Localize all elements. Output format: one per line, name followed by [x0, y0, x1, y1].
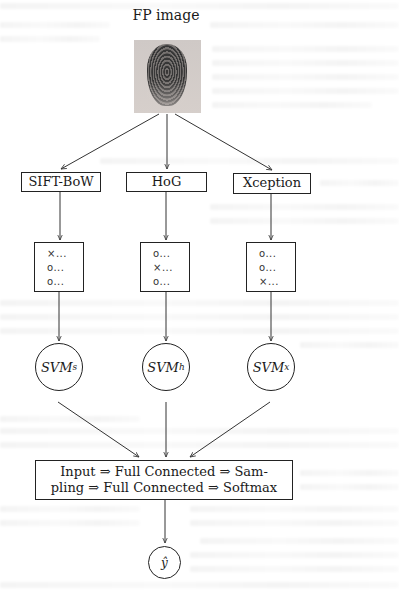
- input-title: FP image: [116, 7, 216, 23]
- vote-box-sift: ×... o... o...: [34, 242, 84, 292]
- fusion-line-1: Input ⇒ Full Connected ⇒ Sam-: [36, 464, 292, 480]
- fusion-network-box: Input ⇒ Full Connected ⇒ Sam- pling ⇒ Fu…: [35, 460, 293, 500]
- feature-box-xception: Xception: [233, 173, 311, 194]
- feature-box-sift-bow: SIFT-BoW: [21, 172, 101, 192]
- classifier-base: SVM: [147, 360, 179, 375]
- classifier-svm-h: SVMh: [142, 343, 190, 391]
- edge-fp-to-xception: [175, 114, 272, 170]
- classifier-svm-s: SVMs: [35, 343, 83, 391]
- vote-row: o...: [247, 261, 295, 275]
- vote-row: o...: [141, 247, 189, 261]
- classifier-svm-x: SVMx: [247, 343, 295, 391]
- vote-box-xception: o... o... ×...: [246, 242, 296, 292]
- edge-svm-x-to-fusion: [190, 402, 270, 457]
- vote-row: ×...: [141, 261, 189, 275]
- feature-label: SIFT-BoW: [28, 174, 93, 189]
- feature-label: Xception: [243, 175, 301, 190]
- feature-box-hog: HoG: [126, 172, 207, 192]
- classifier-subscript: s: [72, 362, 77, 372]
- vote-row: ×...: [35, 247, 83, 261]
- vote-row: o...: [141, 275, 189, 289]
- classifier-base: SVM: [253, 360, 285, 375]
- output-node: ŷ: [148, 546, 181, 579]
- classifier-base: SVM: [41, 360, 73, 375]
- vote-row: o...: [35, 275, 83, 289]
- output-label: ŷ: [161, 556, 168, 570]
- edge-svm-s-to-fusion: [58, 402, 139, 457]
- feature-label: HoG: [152, 174, 182, 189]
- vote-row: o...: [247, 247, 295, 261]
- fusion-line-2: pling ⇒ Full Connected ⇒ Softmax: [36, 480, 292, 496]
- classifier-subscript: x: [284, 362, 289, 372]
- fingerprint-image: [134, 40, 201, 113]
- vote-row: ×...: [247, 275, 295, 289]
- vote-box-hog: o... ×... o...: [140, 242, 190, 292]
- vote-row: o...: [35, 261, 83, 275]
- classifier-subscript: h: [179, 362, 185, 372]
- edge-fp-to-sift: [61, 114, 159, 169]
